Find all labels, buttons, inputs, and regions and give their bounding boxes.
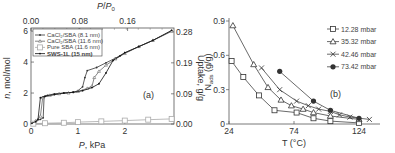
legend-label: 42.46 mbar bbox=[341, 51, 377, 58]
data-point bbox=[294, 99, 299, 104]
legend-marker bbox=[39, 34, 41, 36]
x-tick-label: 0 bbox=[29, 126, 34, 136]
x-label-rest: , kPa bbox=[85, 140, 106, 150]
data-point bbox=[277, 69, 282, 74]
data-point bbox=[265, 84, 271, 89]
data-point bbox=[112, 60, 114, 62]
y-tick-label: 0.3 bbox=[213, 85, 225, 95]
legend-label: 73.42 mbar bbox=[341, 63, 377, 70]
y-tick-label: 6 bbox=[23, 26, 28, 36]
data-point bbox=[169, 116, 174, 121]
series-3 bbox=[277, 69, 362, 121]
panel-a-x-axis-label: P, kPa bbox=[79, 140, 106, 150]
top-label-sub: 0 bbox=[112, 6, 116, 12]
series-line bbox=[280, 71, 359, 118]
data-point bbox=[43, 121, 48, 126]
right-tick-label: 0.19 bbox=[176, 58, 193, 68]
data-point bbox=[82, 86, 84, 88]
data-point bbox=[35, 121, 37, 123]
legend-label: CaCl₂/SBA (8.1 nm) bbox=[47, 32, 100, 38]
data-point bbox=[294, 110, 299, 115]
data-point bbox=[99, 119, 104, 124]
data-point bbox=[39, 115, 42, 118]
data-point bbox=[328, 119, 333, 124]
data-point bbox=[306, 103, 311, 108]
data-point bbox=[44, 95, 46, 97]
right-tick-label: 0.09 bbox=[176, 89, 193, 99]
data-point bbox=[241, 75, 246, 80]
panel-a-legend: CaCl₂/SBA (8.1 nm)CaCl₂/SBA (11.6 nm)Pur… bbox=[33, 29, 103, 57]
data-point bbox=[96, 67, 98, 69]
legend-marker bbox=[331, 27, 336, 32]
data-point bbox=[230, 23, 236, 28]
x-tick-label: 74 bbox=[289, 126, 299, 136]
data-point bbox=[86, 70, 88, 72]
right-tick-label: 0.28 bbox=[176, 27, 193, 37]
x-tick-label: 124 bbox=[352, 126, 366, 136]
series-line bbox=[262, 68, 370, 120]
data-point bbox=[39, 118, 41, 120]
data-point bbox=[256, 93, 261, 98]
panel-a-y-axis-label: n, mol/mol bbox=[2, 57, 12, 99]
legend-label: CaCl₂/SBA (11.6 nm) bbox=[47, 38, 103, 44]
y-label-rest: , mol/mol bbox=[2, 57, 12, 94]
x-tick-label: 24 bbox=[224, 126, 234, 136]
y-tick-label: 2 bbox=[23, 88, 28, 98]
legend-label: 12.28 mbar bbox=[341, 26, 377, 33]
panel-b-x-axis-label: T (°C) bbox=[282, 138, 306, 148]
legend-label: SWS-1L (15 nm) bbox=[47, 51, 93, 57]
y-label-rest: (g/g) bbox=[203, 53, 213, 74]
data-point bbox=[61, 120, 66, 125]
panel-a-top-axis-label: P/P0 bbox=[97, 1, 116, 12]
legend-label: 35.32 mbar bbox=[341, 38, 377, 45]
y-label-sub: ads bbox=[208, 74, 214, 84]
data-point bbox=[311, 99, 316, 104]
data-point bbox=[42, 117, 44, 119]
y-tick-label: 0.9 bbox=[213, 16, 225, 26]
data-point bbox=[328, 108, 333, 113]
top-tick-label: 0.00 bbox=[23, 16, 40, 26]
data-point bbox=[259, 65, 264, 70]
data-point bbox=[146, 117, 151, 122]
panel-b-y-axis-label: Nads (g/g) bbox=[203, 53, 214, 90]
legend-marker bbox=[330, 64, 335, 69]
data-point bbox=[229, 59, 234, 64]
data-point bbox=[311, 116, 316, 121]
data-point bbox=[54, 94, 56, 96]
data-point bbox=[37, 118, 39, 120]
legend-marker bbox=[38, 45, 43, 50]
panel-b-ticks: 247412400.30.60.9 bbox=[213, 16, 366, 136]
data-point bbox=[356, 116, 361, 121]
top-tick-label: 0.08 bbox=[71, 16, 88, 26]
data-point bbox=[82, 90, 84, 92]
data-point bbox=[75, 120, 80, 125]
panel-b-legend: 12.28 mbar35.32 mbar42.46 mbar73.42 mbar bbox=[327, 26, 377, 71]
figure: 01202460.000.080.160.000.090.190.28 CaCl… bbox=[0, 0, 395, 153]
data-point bbox=[288, 103, 294, 108]
y-tick-label: 0 bbox=[23, 119, 28, 129]
legend-marker bbox=[39, 53, 41, 55]
data-point bbox=[91, 87, 93, 89]
panel-b-chart: 247412400.30.60.9 12.28 mbar35.32 mbar42… bbox=[203, 16, 380, 148]
chart-canvas: 01202460.000.080.160.000.090.190.28 CaCl… bbox=[0, 0, 395, 153]
data-point bbox=[84, 77, 86, 79]
panel-a-chart: 01202460.000.080.160.000.090.190.28 CaCl… bbox=[2, 1, 206, 150]
x-tick-label: 1 bbox=[76, 126, 81, 136]
x-tick-label: 2 bbox=[122, 126, 127, 136]
data-point bbox=[122, 118, 127, 123]
y-tick-label: 0 bbox=[220, 119, 225, 129]
data-point bbox=[31, 122, 33, 124]
y-tick-label: 4 bbox=[23, 57, 28, 67]
data-point bbox=[277, 87, 282, 92]
panel-b-label: (b) bbox=[330, 89, 341, 99]
data-point bbox=[152, 39, 154, 41]
data-point bbox=[272, 108, 277, 113]
data-point bbox=[105, 72, 107, 74]
data-point bbox=[98, 83, 100, 85]
data-point bbox=[119, 55, 121, 57]
data-point bbox=[63, 92, 65, 94]
top-tick-label: 0.16 bbox=[119, 16, 136, 26]
y-tick-label: 0.6 bbox=[213, 50, 225, 60]
series-2 bbox=[31, 116, 174, 126]
data-point bbox=[138, 46, 140, 48]
